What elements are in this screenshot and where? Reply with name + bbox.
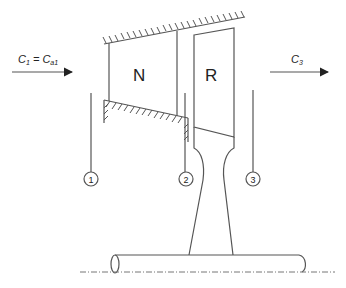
station-3: 3 [246,90,260,186]
svg-text:3: 3 [250,175,255,185]
rotor-blade [189,28,234,255]
shaft [111,255,305,273]
station-1: 1 [84,93,98,186]
nozzle-label: N [133,66,145,85]
svg-text:1: 1 [88,175,93,185]
exit-velocity-label: C3 [291,53,303,66]
turbine-stage-diagram: C1 = Ca1 C3 [0,0,346,288]
casing-wall [103,11,245,44]
hub-wall [104,100,188,142]
inlet-velocity-label: C1 = Ca1 [18,53,58,66]
rotor-label: R [205,66,217,85]
station-2: 2 [179,93,193,186]
svg-text:2: 2 [183,175,188,185]
